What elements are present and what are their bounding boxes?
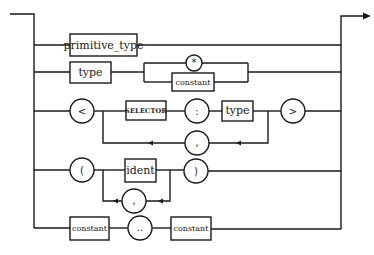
terminal-colon: :	[185, 99, 209, 123]
syntax-diagram: primitive_type type * constant <	[0, 0, 374, 255]
row-enumeration: ( ident ) ,	[34, 158, 341, 213]
label: type	[78, 66, 102, 79]
left-bus	[10, 14, 34, 228]
nonterminal-constant: constant	[172, 73, 214, 91]
label: SELECTOR	[125, 107, 167, 115]
terminal-range-dots: ..	[128, 216, 152, 240]
nonterminal-type-2: type	[222, 101, 253, 121]
label: )	[194, 166, 198, 177]
row-range: constant .. constant	[34, 216, 341, 240]
loop-arrow-icon	[236, 141, 241, 146]
label: ,	[195, 137, 198, 148]
row-primitive-type: primitive_type	[34, 34, 341, 56]
label: <	[78, 106, 86, 117]
terminal-star: *	[186, 55, 202, 71]
terminal-left-paren: (	[70, 158, 94, 182]
label: type	[225, 104, 249, 117]
nonterminal-type: type	[70, 62, 111, 83]
exit-arrow-icon	[363, 13, 371, 20]
nonterminal-constant-low: constant	[70, 217, 109, 240]
terminal-less-than: <	[70, 99, 94, 123]
label: *	[192, 57, 197, 68]
nonterminal-ident: ident	[125, 159, 156, 182]
loop-arrow-icon	[113, 199, 118, 204]
nonterminal-selector: SELECTOR	[125, 101, 167, 120]
label: constant	[72, 224, 108, 233]
label: >	[289, 106, 297, 117]
terminal-greater-than: >	[281, 99, 305, 123]
label: ..	[137, 222, 143, 233]
right-bus	[341, 16, 366, 229]
label: constant	[176, 78, 212, 87]
label: :	[195, 106, 198, 117]
loop-arrow-icon	[158, 199, 163, 204]
nonterminal-constant-high: constant	[171, 217, 211, 240]
label: ,	[132, 195, 135, 206]
loop-arrow-icon	[148, 141, 153, 146]
label: primitive_type	[63, 39, 143, 52]
label: (	[80, 165, 84, 176]
terminal-comma-separator: ,	[185, 131, 209, 155]
terminal-right-paren: )	[184, 159, 208, 183]
label: constant	[174, 224, 210, 233]
nonterminal-primitive-type: primitive_type	[63, 34, 143, 56]
row-type-array: type * constant	[34, 55, 341, 91]
label: ident	[126, 164, 155, 177]
row-record: < SELECTOR : type > ,	[34, 99, 341, 155]
terminal-comma-separator-2: ,	[122, 189, 146, 213]
